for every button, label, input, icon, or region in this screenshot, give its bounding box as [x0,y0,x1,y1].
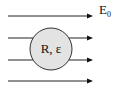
sphere-label: R, ε [41,41,62,56]
field-label-main: E [99,2,107,17]
arrowhead-1 [87,14,93,19]
field-label: E0 [99,2,111,19]
arrowhead-4 [87,79,93,84]
arrowhead-2 [87,36,93,41]
field-label-subscript: 0 [107,10,111,19]
dielectric-sphere-diagram: R, ε E0 [0,0,119,88]
arrowhead-3 [87,58,93,63]
